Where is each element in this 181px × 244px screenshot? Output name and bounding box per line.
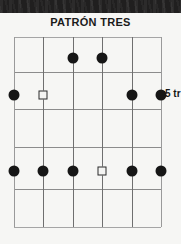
note-marker-m7 (9, 166, 20, 177)
scan-artifact-texture (0, 0, 181, 13)
fret-line-1 (14, 72, 161, 73)
string-line-3 (73, 37, 74, 227)
note-marker-m12 (156, 166, 167, 177)
note-marker-m5 (126, 90, 137, 101)
fret-line-4 (14, 189, 161, 190)
root-note-marker-m4 (39, 91, 48, 100)
fret-line-2 (14, 109, 161, 110)
root-note-marker-m10 (98, 167, 107, 176)
note-marker-m1 (67, 53, 78, 64)
string-line-1 (14, 37, 15, 227)
fret-line-5 (14, 227, 161, 228)
scan-artifact-band (0, 0, 181, 13)
string-line-4 (102, 37, 103, 227)
string-line-5 (132, 37, 133, 227)
fret-line-0 (14, 37, 161, 38)
page-title: PATRÓN TRES (0, 16, 181, 28)
fret-line-3 (14, 147, 161, 148)
note-marker-m11 (126, 166, 137, 177)
note-marker-m3 (9, 90, 20, 101)
note-marker-m9 (67, 166, 78, 177)
fretboard-diagram (14, 37, 161, 227)
note-marker-m2 (97, 53, 108, 64)
note-marker-m8 (38, 166, 49, 177)
string-line-6 (161, 37, 162, 227)
fret-position-label: 5 tr (165, 88, 181, 99)
string-line-2 (43, 37, 44, 227)
